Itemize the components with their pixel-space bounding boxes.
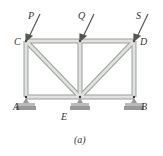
node-label-b: B: [141, 102, 147, 112]
load-label-s: S: [136, 11, 141, 21]
truss-diagram: [0, 0, 163, 156]
node-label-c: C: [14, 37, 21, 47]
supports: [16, 98, 144, 110]
node-label-d: D: [140, 37, 147, 47]
truss-members: [26, 41, 134, 97]
figure-caption: (a): [74, 135, 86, 145]
node-label-a: A: [13, 102, 19, 112]
load-arrows: [26, 14, 148, 41]
node-label-e: E: [61, 112, 67, 122]
load-label-q: Q: [78, 11, 85, 21]
load-label-p: P: [28, 11, 34, 21]
